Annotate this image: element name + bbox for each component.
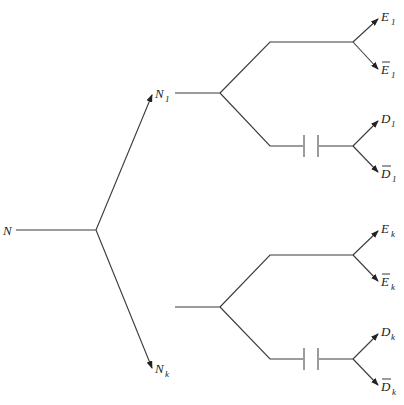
svg-text:1: 1 [392, 174, 397, 184]
branch-to-nk [96, 230, 152, 368]
n1-sub: 1 [165, 94, 170, 104]
svg-text:k: k [391, 332, 396, 342]
n1-d-path-a [220, 93, 303, 146]
subtree-nk: N k E k E k D k D k [154, 221, 397, 397]
subtree-n1: N 1 E 1 E 1 D 1 D 1 [154, 9, 397, 184]
svg-text:k: k [391, 229, 396, 239]
svg-text:1: 1 [391, 70, 396, 80]
svg-text:1: 1 [391, 17, 396, 27]
d1bar-arrow [353, 146, 378, 172]
leaf-ek-bar: E [380, 274, 389, 289]
root-label: N [2, 223, 13, 238]
dkbar-arrow [353, 359, 378, 385]
dk-arrow [353, 334, 378, 359]
leaf-ek: E [380, 221, 389, 236]
tree-diagram: N N 1 E 1 E 1 D 1 D 1 N k [0, 0, 404, 405]
nk-sub: k [165, 369, 170, 379]
svg-text:1: 1 [391, 119, 396, 129]
leaf-e1-bar: E [380, 62, 389, 77]
leaf-dk-bar: D [380, 379, 391, 394]
d1-arrow [353, 121, 378, 146]
n1-label: N [154, 86, 165, 101]
leaf-dk: D [380, 324, 391, 339]
nk-label: N [154, 361, 165, 376]
svg-text:k: k [392, 387, 397, 397]
leaf-d1: D [380, 111, 391, 126]
diagram-canvas: N N 1 E 1 E 1 D 1 D 1 N k [0, 0, 404, 405]
branch-to-n1 [96, 95, 152, 230]
e1-arrow [353, 19, 378, 42]
nk-d-path-a [220, 307, 303, 359]
svg-text:k: k [391, 282, 396, 292]
leaf-d1-bar: D [380, 166, 391, 181]
e1bar-arrow [353, 42, 378, 69]
nk-e-path [220, 255, 353, 307]
n1-e-path [220, 42, 353, 93]
leaf-e1: E [380, 9, 389, 24]
ekbar-arrow [353, 255, 378, 281]
ek-arrow [353, 231, 378, 255]
